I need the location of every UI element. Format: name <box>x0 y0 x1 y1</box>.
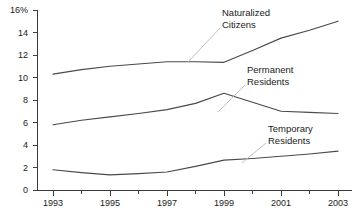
y-tick-label-2: 2 <box>23 163 28 173</box>
annotation-leader-naturalized-citizens <box>188 28 220 62</box>
y-tick-label-8: 8 <box>23 95 28 105</box>
y-tick-label-12: 12 <box>18 50 28 60</box>
y-tick-label-0: 0 <box>23 185 28 195</box>
annotation-label-permanent-residents-line2: Residents <box>247 76 289 87</box>
y-tick-label-4: 4 <box>23 140 28 150</box>
series-line-temporary-residents <box>53 151 338 175</box>
annotation-label-temporary-residents: Temporary <box>268 123 313 134</box>
x-tick-label-1995: 1995 <box>100 198 120 208</box>
annotation-label-temporary-residents-line2: Residents <box>268 135 310 146</box>
series-line-naturalized-citizens <box>53 21 338 74</box>
y-tick-label-10: 10 <box>18 73 28 83</box>
annotation-label-naturalized-citizens: Naturalized <box>222 7 270 18</box>
x-tick-label-2001: 2001 <box>271 198 291 208</box>
x-tick-label-1993: 1993 <box>43 198 63 208</box>
x-tick-label-2003: 2003 <box>328 198 348 208</box>
series-line-permanent-residents <box>53 93 338 125</box>
series-annotations: NaturalizedCitizensPermanentResidentsTem… <box>188 7 313 163</box>
annotation-leader-temporary-residents <box>242 143 266 163</box>
line-chart: 0246810121416% 199319951997199920012003 … <box>0 0 362 212</box>
series-lines <box>53 21 338 175</box>
y-tick-label-16: 16% <box>10 5 28 15</box>
y-axis-ticks: 0246810121416% <box>10 5 38 195</box>
annotation-label-naturalized-citizens-line2: Citizens <box>222 19 256 30</box>
x-axis-ticks: 199319951997199920012003 <box>43 191 348 209</box>
annotation-label-permanent-residents: Permanent <box>247 64 294 75</box>
y-tick-label-6: 6 <box>23 118 28 128</box>
x-tick-label-1997: 1997 <box>157 198 177 208</box>
y-tick-label-14: 14 <box>18 28 28 38</box>
x-tick-label-1999: 1999 <box>214 198 234 208</box>
chart-canvas: 0246810121416% 199319951997199920012003 … <box>0 0 362 212</box>
